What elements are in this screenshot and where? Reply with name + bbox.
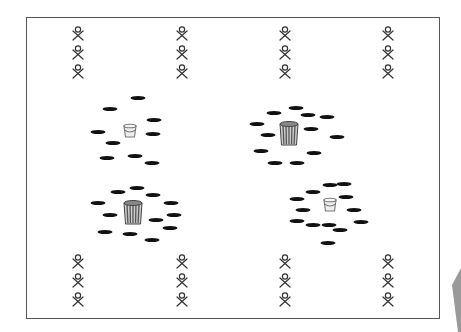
drill-field — [0, 0, 461, 332]
player-figure-icon — [73, 293, 83, 306]
cone-disc-icon — [301, 113, 316, 117]
barrel-icon — [280, 122, 298, 146]
cone-disc-icon — [130, 186, 145, 190]
cone-disc-icon — [321, 241, 336, 245]
cone-disc-icon — [131, 96, 146, 100]
player-figure-icon — [73, 274, 83, 287]
player-figure-icon — [73, 27, 83, 40]
cone-disc-icon — [339, 195, 354, 199]
cone-disc-icon — [261, 133, 276, 137]
cone-disc-icon — [145, 161, 160, 165]
cone-disc-icon — [103, 107, 118, 111]
player-figure-icon — [280, 274, 290, 287]
cone-disc-icon — [330, 135, 345, 139]
player-figure-icon — [177, 293, 187, 306]
cone-disc-icon — [91, 201, 106, 205]
cone-disc-icon — [106, 141, 121, 145]
cone-disc-icon — [322, 223, 337, 227]
player-figure-icon — [383, 293, 393, 306]
player-figure-icon — [383, 46, 393, 59]
player-figure-icon — [280, 293, 290, 306]
cone-disc-icon — [146, 193, 161, 197]
barrel-icon — [124, 201, 142, 225]
cone-disc-icon — [296, 208, 311, 212]
cone-disc-icon — [347, 208, 362, 212]
cone-disc-icon — [337, 182, 352, 186]
cone-disc-icon — [290, 161, 305, 165]
player-figure-icon — [280, 255, 290, 268]
cone-disc-icon — [304, 127, 319, 131]
player-figure-icon — [383, 65, 393, 78]
player-figure-icon — [280, 65, 290, 78]
cone-disc-icon — [290, 219, 305, 223]
player-figure-icon — [177, 46, 187, 59]
cone-disc-icon — [354, 220, 369, 224]
cone-disc-icon — [128, 154, 143, 158]
cone-disc-icon — [320, 115, 335, 119]
cone-disc-icon — [149, 218, 164, 222]
cone-disc-icon — [147, 118, 162, 122]
cone-disc-icon — [91, 130, 106, 134]
cone-disc-icon — [333, 228, 348, 232]
cone-disc-icon — [267, 111, 282, 115]
cone-disc-icon — [307, 151, 322, 155]
cone-disc-icon — [306, 223, 321, 227]
cropped-wedge-shape — [452, 268, 461, 332]
cone-disc-icon — [164, 201, 179, 205]
player-figure-icon — [383, 255, 393, 268]
bucket-icon — [324, 198, 336, 211]
cone-disc-icon — [98, 230, 113, 234]
cone-disc-icon — [145, 238, 160, 242]
player-figure-icon — [73, 255, 83, 268]
cone-disc-icon — [250, 122, 265, 126]
player-figure-icon — [177, 274, 187, 287]
player-figure-icon — [383, 27, 393, 40]
bucket-icon — [124, 124, 136, 137]
player-figure-icon — [383, 274, 393, 287]
cone-disc-icon — [100, 156, 115, 160]
player-figure-icon — [73, 46, 83, 59]
cone-disc-icon — [146, 132, 161, 136]
cone-disc-icon — [268, 161, 283, 165]
cone-disc-icon — [163, 226, 178, 230]
player-figure-icon — [280, 27, 290, 40]
cone-disc-icon — [167, 213, 182, 217]
player-figure-icon — [177, 27, 187, 40]
player-figure-icon — [177, 65, 187, 78]
cone-disc-icon — [306, 190, 321, 194]
cone-disc-icon — [289, 106, 304, 110]
cone-disc-icon — [103, 213, 118, 217]
cone-disc-icon — [323, 183, 338, 187]
cone-disc-icon — [254, 149, 269, 153]
cone-disc-icon — [111, 190, 126, 194]
player-figure-icon — [177, 255, 187, 268]
cone-disc-icon — [123, 232, 138, 236]
player-figure-icon — [280, 46, 290, 59]
player-figure-icon — [73, 65, 83, 78]
cone-disc-icon — [290, 197, 305, 201]
